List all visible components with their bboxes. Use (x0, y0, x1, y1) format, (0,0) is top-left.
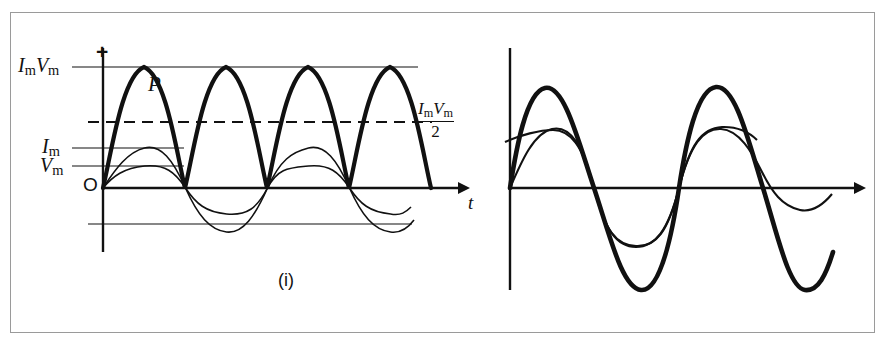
panel-reactive-power: O P V I t + + − − average P = O (ii) (455, 0, 883, 346)
label-power-curve-panel-i: P (148, 72, 161, 97)
voltage-curve (505, 127, 757, 246)
label-average-power-value: ImVm 2 (417, 100, 454, 140)
label-peak-power: ImVm (18, 54, 59, 79)
panel-i-plot (0, 0, 470, 346)
voltage-curve (103, 166, 411, 215)
current-curve (103, 147, 414, 232)
panel-resistive-power: ImVm + Im Vm O P t ImVm 2 (i) (0, 0, 470, 346)
panel-ii-plot (455, 0, 883, 346)
label-positive-sign-axis: + (96, 40, 108, 64)
label-peak-voltage: Vm (40, 154, 63, 179)
label-origin-panel-i: O (83, 174, 98, 196)
caption-panel-i: (i) (278, 270, 294, 291)
figure-root: ImVm + Im Vm O P t ImVm 2 (i) (0, 0, 883, 346)
x-axis-arrow-icon (854, 182, 866, 194)
